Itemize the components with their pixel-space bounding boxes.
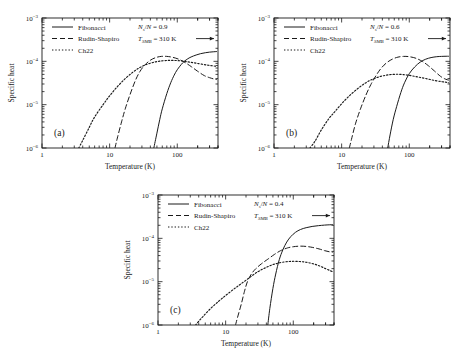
y-tick-label: 10−3 <box>26 14 39 23</box>
series-ch22 <box>310 74 449 148</box>
y-axis-label: Specific heat <box>7 63 16 103</box>
annotation-text: TSMB = 310 K <box>254 212 292 221</box>
y-tick-label: 10−4 <box>142 234 155 243</box>
legend: FibonacciRudin-ShapiroCh22 <box>284 24 352 55</box>
series-fibonacci <box>388 56 449 148</box>
data-series-group <box>196 225 333 325</box>
panel-c-svg: 11010010−610−510−410−3Temperature (K)Spe… <box>116 177 348 355</box>
panel-label: (b) <box>286 128 297 139</box>
y-tick-labels: 10−610−510−410−3 <box>142 191 155 330</box>
series-ch22 <box>196 261 333 325</box>
x-tick-label: 100 <box>404 151 415 159</box>
x-tick-labels: 110100 <box>40 151 183 159</box>
series-fibonacci <box>154 52 217 148</box>
annotations: Ns/N = 0.4TSMB = 310 K <box>253 200 330 221</box>
y-axis-label: Specific heat <box>239 63 248 103</box>
annotation-text: TSMB = 310 K <box>138 35 176 44</box>
x-axis-label: Temperature (K) <box>105 162 156 171</box>
legend-label: Fibonacci <box>78 24 106 32</box>
x-tick-labels: 110100 <box>156 328 299 336</box>
plot-frame <box>158 195 334 325</box>
legend-label: Ch22 <box>194 224 210 232</box>
series-rudin-shapiro <box>349 56 448 148</box>
annotation-text: Ns/N = 0.9 <box>137 23 168 32</box>
legend-label: Rudin-Shapiro <box>78 35 120 43</box>
x-tick-label: 1 <box>156 328 160 336</box>
annotation-text: TSMB = 310 K <box>370 35 408 44</box>
y-tick-label: 10−6 <box>142 321 155 330</box>
annotation-text: Ns/N = 0.4 <box>253 200 284 209</box>
legend-label: Fibonacci <box>194 201 222 209</box>
legend-label: Ch22 <box>310 47 326 55</box>
legend: FibonacciRudin-ShapiroCh22 <box>168 201 236 232</box>
annotation-arrow-head <box>210 37 214 41</box>
legend-label: Rudin-Shapiro <box>310 35 352 43</box>
panel-a-svg: 11010010−610−510−410−3Temperature (K)Spe… <box>0 0 232 178</box>
data-series-group <box>79 52 217 148</box>
x-tick-label: 100 <box>288 328 299 336</box>
axis-ticks <box>274 18 450 148</box>
y-tick-labels: 10−610−510−410−3 <box>258 14 271 153</box>
y-tick-labels: 10−610−510−410−3 <box>26 14 39 153</box>
annotation-text: Ns/N = 0.6 <box>369 23 400 32</box>
y-tick-label: 10−5 <box>142 277 155 286</box>
annotations: Ns/N = 0.6TSMB = 310 K <box>369 23 446 44</box>
annotation-arrow-head <box>326 214 330 218</box>
series-fibonacci <box>268 225 333 325</box>
legend: FibonacciRudin-ShapiroCh22 <box>52 24 120 55</box>
y-tick-label: 10−6 <box>26 144 39 153</box>
series-ch22 <box>79 60 217 148</box>
panel-c: 11010010−610−510−410−3Temperature (K)Spe… <box>116 177 348 355</box>
panel-b-svg: 11010010−610−510−410−3Temperature (K)Spe… <box>232 0 464 178</box>
x-tick-label: 100 <box>172 151 183 159</box>
x-tick-label: 1 <box>272 151 276 159</box>
y-tick-label: 10−5 <box>26 100 39 109</box>
x-tick-label: 10 <box>106 151 114 159</box>
annotations: Ns/N = 0.9TSMB = 310 K <box>137 23 214 44</box>
legend-label: Ch22 <box>78 47 94 55</box>
y-tick-label: 10−6 <box>258 144 271 153</box>
y-tick-label: 10−4 <box>26 57 39 66</box>
annotation-arrow-head <box>442 37 446 41</box>
x-axis-label: Temperature (K) <box>221 339 272 348</box>
x-axis-label: Temperature (K) <box>337 162 388 171</box>
plot-frame <box>42 18 218 148</box>
panel-label: (a) <box>54 128 65 139</box>
data-series-group <box>310 56 449 148</box>
plot-frame <box>274 18 450 148</box>
panel-b: 11010010−610−510−410−3Temperature (K)Spe… <box>232 0 464 178</box>
y-axis-label: Specific heat <box>123 240 132 280</box>
legend-label: Rudin-Shapiro <box>194 212 236 220</box>
y-tick-label: 10−3 <box>142 191 155 200</box>
x-tick-label: 10 <box>338 151 346 159</box>
series-rudin-shapiro <box>236 246 333 325</box>
axis-ticks <box>42 18 218 148</box>
x-tick-labels: 110100 <box>272 151 415 159</box>
y-tick-label: 10−4 <box>258 57 271 66</box>
panel-label: (c) <box>170 305 181 316</box>
legend-label: Fibonacci <box>310 24 338 32</box>
panel-a: 11010010−610−510−410−3Temperature (K)Spe… <box>0 0 232 178</box>
x-tick-label: 10 <box>222 328 230 336</box>
y-tick-label: 10−5 <box>258 100 271 109</box>
x-tick-label: 1 <box>40 151 44 159</box>
axis-ticks <box>158 195 334 325</box>
y-tick-label: 10−3 <box>258 14 271 23</box>
series-rudin-shapiro <box>115 56 217 148</box>
